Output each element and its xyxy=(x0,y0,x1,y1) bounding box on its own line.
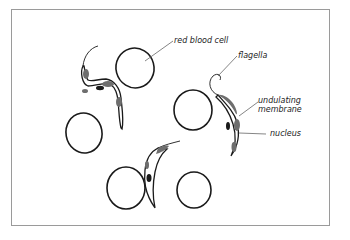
trypanosome-bottom xyxy=(145,141,180,208)
red-blood-cell xyxy=(174,90,212,130)
leader-undulating-membrane xyxy=(239,102,258,116)
red-blood-cell xyxy=(111,44,158,92)
trypanosome-right xyxy=(210,74,240,156)
trypanosome-left xyxy=(82,46,123,129)
label-nucleus: nucleus xyxy=(270,129,301,138)
leader-nucleus xyxy=(239,133,266,134)
label-undulating-membrane-line1: undulating xyxy=(258,96,301,105)
leader-flagella xyxy=(218,56,237,76)
label-red-blood-cell: red blood cell xyxy=(174,36,228,45)
leader-red-blood-cell xyxy=(145,41,173,61)
red-blood-cell xyxy=(177,172,211,208)
label-flagella: flagella xyxy=(238,51,267,60)
red-blood-cell xyxy=(63,110,105,156)
label-undulating-membrane-line2: membrane xyxy=(258,105,302,114)
red-blood-cell xyxy=(107,167,145,209)
